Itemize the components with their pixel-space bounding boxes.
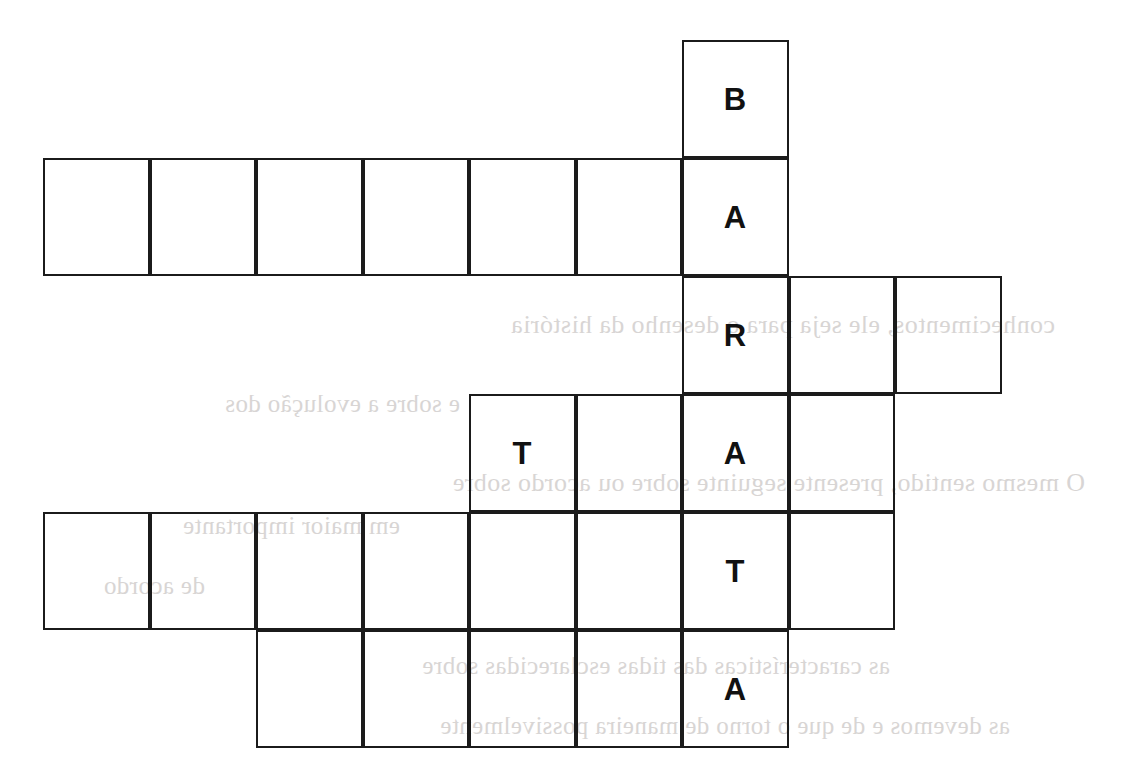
- crossword-cell-empty[interactable]: [576, 394, 683, 512]
- crossword-cell-filled[interactable]: T: [682, 512, 789, 630]
- crossword-letter: A: [724, 438, 747, 469]
- crossword-cell-empty[interactable]: [363, 630, 470, 748]
- crossword-cell-empty[interactable]: [43, 158, 150, 276]
- crossword-cell-empty[interactable]: [576, 158, 683, 276]
- crossword-cell-empty[interactable]: [469, 512, 576, 630]
- crossword-letter: A: [724, 202, 747, 233]
- crossword-cell-empty[interactable]: [895, 276, 1002, 394]
- crossword-cell-empty[interactable]: [789, 394, 896, 512]
- crossword-cell-filled[interactable]: A: [682, 394, 789, 512]
- crossword-cell-empty[interactable]: [256, 630, 363, 748]
- crossword-cell-filled[interactable]: A: [682, 158, 789, 276]
- crossword-puzzle-stage: conhecimentos, ele seja para o desenho d…: [0, 0, 1142, 773]
- crossword-cell-filled[interactable]: T: [469, 394, 576, 512]
- crossword-cell-empty[interactable]: [363, 158, 470, 276]
- crossword-cell-empty[interactable]: [576, 630, 683, 748]
- crossword-cell-filled[interactable]: B: [682, 40, 789, 158]
- crossword-cell-empty[interactable]: [469, 158, 576, 276]
- crossword-letter: A: [724, 674, 747, 705]
- crossword-cell-empty[interactable]: [789, 276, 896, 394]
- crossword-cell-empty[interactable]: [576, 512, 683, 630]
- crossword-cell-empty[interactable]: [256, 512, 363, 630]
- crossword-cell-empty[interactable]: [150, 158, 257, 276]
- crossword-cell-empty[interactable]: [43, 512, 150, 630]
- crossword-letter: R: [724, 320, 747, 351]
- crossword-cell-empty[interactable]: [469, 630, 576, 748]
- crossword-cell-empty[interactable]: [789, 512, 896, 630]
- crossword-letter: B: [724, 84, 747, 115]
- crossword-cell-filled[interactable]: A: [682, 630, 789, 748]
- crossword-letter: T: [726, 556, 745, 587]
- crossword-letter: T: [513, 438, 532, 469]
- crossword-cell-empty[interactable]: [363, 512, 470, 630]
- crossword-cell-empty[interactable]: [256, 158, 363, 276]
- crossword-grid: BARTATA: [0, 0, 1142, 773]
- crossword-cell-filled[interactable]: R: [682, 276, 789, 394]
- crossword-cell-empty[interactable]: [150, 512, 257, 630]
